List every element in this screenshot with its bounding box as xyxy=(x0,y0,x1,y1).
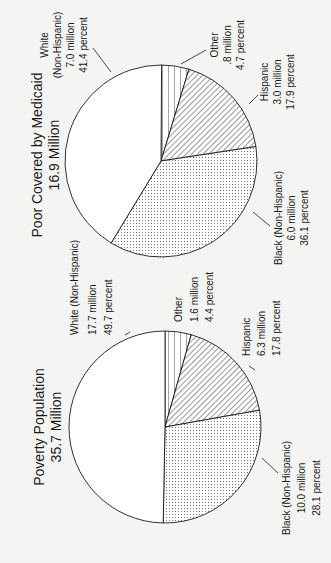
svg-text:White: White xyxy=(39,32,50,58)
poverty-label-hispanic: Hispanic 6.3 million 17.8 percent xyxy=(241,300,282,370)
svg-text:Other: Other xyxy=(209,32,220,58)
svg-text:35.7 Million: 35.7 Million xyxy=(48,392,64,463)
medicaid-pie-title: Poor Covered by Medicaid 16.9 Million xyxy=(29,73,62,238)
svg-text:.8 million: .8 million xyxy=(222,25,233,64)
svg-text:49.7 percent: 49.7 percent xyxy=(103,279,114,335)
poverty-pie-title: Poverty Population 35.7 Million xyxy=(31,368,64,486)
medicaid-label-white: White (Non-Hispanic) 7.0 million 41.4 pe… xyxy=(39,12,111,79)
poverty-label-black: Black (Non-Hispanic) 10.0 million 28.1 p… xyxy=(262,441,322,535)
medicaid-label-black: Black (Non-Hispanic) 6.0 million 36.1 pe… xyxy=(253,171,310,265)
svg-text:10.0 million: 10.0 million xyxy=(296,463,307,514)
medicaid-pie xyxy=(65,65,257,257)
svg-text:16.9 Million: 16.9 Million xyxy=(46,120,62,191)
svg-text:6.0 million: 6.0 million xyxy=(286,195,297,240)
svg-text:28.1 percent: 28.1 percent xyxy=(311,460,322,516)
svg-text:3.0 million: 3.0 million xyxy=(272,59,283,104)
medicaid-label-hispanic: Hispanic 3.0 million 17.9 percent xyxy=(249,54,296,110)
medicaid-label-other: Other .8 million 4.7 percent xyxy=(181,20,246,70)
svg-text:(Non-Hispanic): (Non-Hispanic) xyxy=(52,12,63,79)
svg-text:17.9 percent: 17.9 percent xyxy=(285,54,296,110)
svg-text:Black (Non-Hispanic): Black (Non-Hispanic) xyxy=(273,171,284,265)
svg-text:Black (Non-Hispanic): Black (Non-Hispanic) xyxy=(281,441,292,535)
svg-text:4.4 percent: 4.4 percent xyxy=(204,272,215,322)
svg-text:Poverty Population: Poverty Population xyxy=(31,368,47,486)
poverty-label-white: White (Non-Hispanic) 17.7 million 49.7 p… xyxy=(69,240,130,335)
svg-text:17.7 million: 17.7 million xyxy=(87,284,98,335)
svg-text:Poor Covered by Medicaid: Poor Covered by Medicaid xyxy=(29,73,45,238)
svg-text:White (Non-Hispanic): White (Non-Hispanic) xyxy=(69,240,80,335)
poverty-population-pie xyxy=(69,331,261,523)
svg-text:41.4 percent: 41.4 percent xyxy=(78,17,89,73)
pie-slice-white-non-hispanic xyxy=(69,331,165,523)
svg-text:1.6 million: 1.6 million xyxy=(189,277,200,322)
svg-text:6.3 million: 6.3 million xyxy=(256,311,267,356)
svg-text:36.1 percent: 36.1 percent xyxy=(299,190,310,246)
svg-text:17.8 percent: 17.8 percent xyxy=(271,300,282,356)
svg-text:Hispanic: Hispanic xyxy=(259,63,270,101)
chart-canvas: Poverty Population 35.7 Million White (N… xyxy=(0,0,331,563)
svg-text:7.0 million: 7.0 million xyxy=(65,22,76,67)
poverty-label-other: Other 1.6 million 4.4 percent xyxy=(173,272,215,322)
svg-text:Hispanic: Hispanic xyxy=(241,318,252,356)
svg-text:4.7 percent: 4.7 percent xyxy=(235,20,246,70)
pie-slice-black-non-hispanic xyxy=(163,410,261,523)
svg-text:Other: Other xyxy=(173,296,184,322)
